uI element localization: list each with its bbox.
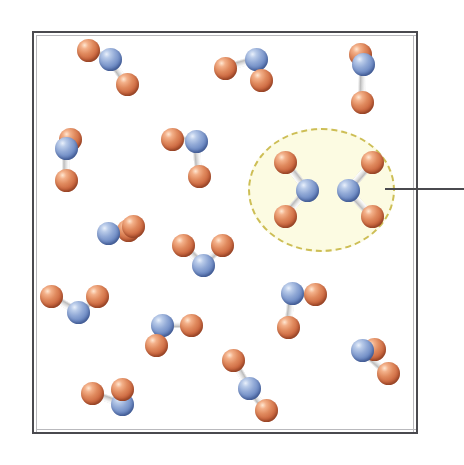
nitrogen-atom (97, 222, 120, 245)
oxygen-atom (122, 215, 145, 238)
nitrogen-atom (185, 130, 208, 153)
oxygen-atom (211, 234, 234, 257)
nitrogen-atom (151, 314, 174, 337)
nitrogen-atom (99, 48, 122, 71)
container-edge-bottom-shadow (36, 429, 416, 430)
oxygen-atom (180, 314, 203, 337)
oxygen-atom (274, 205, 297, 228)
oxygen-atom (255, 399, 278, 422)
nitrogen-atom (296, 179, 319, 202)
container-edge-bottom (32, 432, 418, 434)
nitrogen-atom (337, 179, 360, 202)
oxygen-atom (277, 316, 300, 339)
oxygen-atom (116, 73, 139, 96)
nitrogen-atom (281, 282, 304, 305)
nitrogen-atom (55, 137, 78, 160)
oxygen-atom (40, 285, 63, 308)
oxygen-atom (214, 57, 237, 80)
oxygen-atom (188, 165, 211, 188)
oxygen-atom (377, 362, 400, 385)
nitrogen-atom (352, 53, 375, 76)
highlighted-collision-pair (248, 128, 395, 252)
oxygen-atom (55, 169, 78, 192)
nitrogen-atom (351, 339, 374, 362)
oxygen-atom (361, 151, 384, 174)
oxygen-atom (172, 234, 195, 257)
container-edge-right-shadow (413, 35, 414, 432)
oxygen-atom (361, 205, 384, 228)
oxygen-atom (161, 128, 184, 151)
container-edge-left (32, 31, 34, 434)
nitrogen-atom (67, 301, 90, 324)
oxygen-atom (145, 334, 168, 357)
oxygen-atom (86, 285, 109, 308)
nitrogen-atom (238, 377, 261, 400)
oxygen-atom (222, 349, 245, 372)
oxygen-atom (250, 69, 273, 92)
container-edge-right (416, 31, 418, 434)
oxygen-atom (304, 283, 327, 306)
oxygen-atom (77, 39, 100, 62)
nitrogen-atom (192, 254, 215, 277)
oxygen-atom (351, 91, 374, 114)
oxygen-atom (81, 382, 104, 405)
container-edge-left-shadow (36, 35, 37, 432)
nitrogen-atom (245, 48, 268, 71)
molecular-diagram-scene (0, 0, 464, 465)
container-edge-top (32, 31, 418, 33)
container-edge-top-shadow (36, 35, 416, 36)
oxygen-atom (111, 378, 134, 401)
oxygen-atom (274, 151, 297, 174)
callout-leader-line (385, 188, 464, 190)
